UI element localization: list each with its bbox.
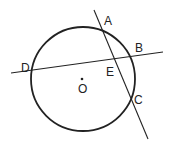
label-d: D — [21, 61, 30, 75]
label-e: E — [106, 65, 114, 79]
label-b: B — [135, 41, 143, 55]
center-dot — [81, 78, 84, 81]
label-o: O — [78, 82, 87, 96]
geometry-diagram: A B C D E O — [0, 0, 171, 148]
line-ac — [94, 10, 148, 139]
label-a: A — [104, 14, 112, 28]
label-c: C — [134, 93, 143, 107]
